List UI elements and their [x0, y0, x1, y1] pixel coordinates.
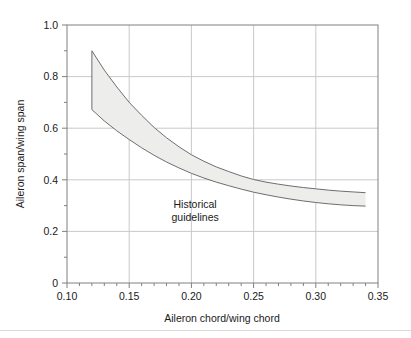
x-axis-title: Aileron chord/wing chord — [164, 312, 280, 324]
y-axis-title: Aileron span/wing span — [14, 100, 26, 209]
y-axis-tick-label: 0 — [52, 277, 58, 289]
y-axis-tick-label: 0.8 — [43, 70, 58, 82]
y-axis-tick-label: 0.6 — [43, 122, 58, 134]
x-axis-tick-label: 0.35 — [368, 290, 389, 302]
x-axis-tick-label: 0.30 — [306, 290, 327, 302]
x-axis-tick-label: 0.25 — [243, 290, 264, 302]
chart-figure: 0.100.150.200.250.300.35 00.20.40.60.81.… — [0, 0, 411, 338]
annotation-historical-guidelines-line2: guidelines — [171, 211, 218, 223]
footer-divider — [0, 330, 411, 331]
x-axis-tick-label: 0.15 — [119, 290, 140, 302]
x-axis-tick-label: 0.20 — [181, 290, 202, 302]
aileron-sizing-chart: 0.100.150.200.250.300.35 00.20.40.60.81.… — [0, 0, 411, 338]
y-axis-tick-label: 0.2 — [43, 225, 58, 237]
x-axis-tick-label: 0.10 — [57, 290, 78, 302]
y-axis-tick-label: 0.4 — [43, 174, 58, 186]
y-axis-tick-label: 1.0 — [43, 19, 58, 31]
annotation-historical-guidelines-line1: Historical — [174, 198, 217, 210]
